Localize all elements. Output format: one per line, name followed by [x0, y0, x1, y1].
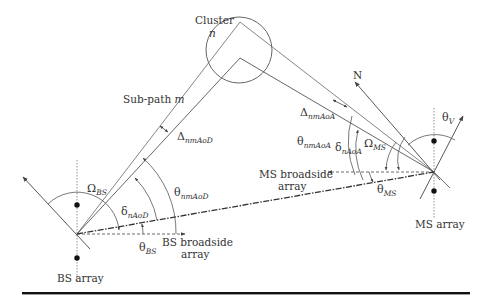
- channel-geometry-diagram: Cluster n Sub-path m ΔnmAoD ΩBS θBS δnAo…: [0, 0, 487, 300]
- ms-orientation-arrow: [420, 116, 463, 199]
- omega-ms-arc: [386, 142, 396, 170]
- omega-ms-arc-2: [398, 137, 405, 170]
- cluster-index: n: [209, 27, 216, 39]
- delta-naod-label: δnAoD: [121, 205, 148, 220]
- theta-nmaoa-label: θnmAoA: [297, 135, 331, 150]
- omega-bs-arc: [48, 192, 119, 230]
- theta-nmaod-label: θnmAoD: [174, 186, 209, 201]
- ms-array-label: MS array: [415, 218, 465, 230]
- bs-orientation-arrow: [23, 177, 90, 249]
- bs-array-element-top: [74, 202, 79, 207]
- ms-array-element-bottom: [431, 188, 436, 193]
- subpath-outer-bs: [77, 22, 240, 234]
- theta-v-label: θV: [442, 111, 456, 126]
- theta-ms-arc: [369, 172, 373, 182]
- subpath-inner-ms: [240, 58, 434, 172]
- bottom-rule: [22, 292, 470, 294]
- bs-broadside-label-2: array: [181, 248, 210, 260]
- omega-bs-label: ΩBS: [87, 182, 107, 197]
- theta-ms-label: θMS: [377, 183, 396, 198]
- bs-array-label: BS array: [57, 272, 104, 284]
- theta-nmaod-arc: [143, 158, 176, 234]
- theta-bs-arc: [142, 224, 143, 234]
- cluster-circle: [206, 17, 272, 83]
- ms-broadside-label: MS broadside: [259, 168, 333, 180]
- theta-bs-label: θBS: [139, 241, 156, 256]
- subpath-inner-bs: [77, 58, 240, 234]
- north-arrow: [355, 82, 440, 180]
- delta-nmaod-label: ΔnmAoD: [177, 130, 213, 145]
- delta-nmaoa-label: ΔnmAoA: [300, 106, 336, 121]
- ms-broadside-label-2: array: [278, 180, 307, 192]
- north-label: N: [353, 69, 362, 81]
- bs-array-element-bottom: [74, 255, 79, 260]
- los-line: [77, 172, 434, 234]
- ms-array-line: [434, 172, 450, 188]
- bs-broadside-label: BS broadside: [162, 236, 233, 248]
- ms-array-element-top: [431, 138, 436, 143]
- subpath-label: Sub-path m: [123, 93, 185, 105]
- omega-ms-label: ΩMS: [364, 137, 386, 152]
- theta-v-arc: [408, 135, 455, 145]
- delta-aod-arrow: [160, 126, 168, 132]
- cluster-label: Cluster: [195, 14, 235, 26]
